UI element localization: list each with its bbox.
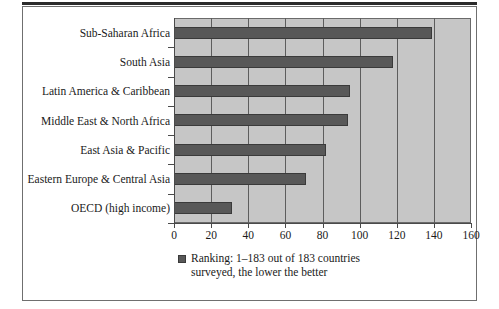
bar-row [174,164,471,193]
y-axis-labels: Sub-Saharan Africa South Asia Latin Amer… [0,18,170,223]
x-axis-tick [471,223,472,228]
plot-area-wrapper [174,18,471,223]
x-axis-label: 60 [270,229,300,242]
y-axis-label: Latin America & Caribbean [2,85,170,97]
bar [174,173,306,185]
bar [174,114,348,126]
bar-row [174,47,471,76]
y-axis-tick [168,135,174,136]
y-axis-label: Eastern Europe & Central Asia [2,173,170,185]
x-axis-tick [211,223,212,228]
y-axis-label: South Asia [2,56,170,68]
bar [174,85,350,97]
x-axis-tick [434,223,435,228]
x-axis-tick [323,223,324,228]
x-axis-tick [285,223,286,228]
x-axis-label: 100 [345,229,375,242]
x-axis-label: 120 [382,229,412,242]
bar [174,56,393,68]
x-axis-tick [248,223,249,228]
y-axis-tick [168,194,174,195]
y-axis-tick [168,47,174,48]
y-axis-label: Sub-Saharan Africa [2,27,170,39]
y-axis-label: OECD (high income) [2,202,170,214]
bar-row [174,77,471,106]
y-axis-label: Middle East & North Africa [2,115,170,127]
y-axis-label: East Asia & Pacific [2,144,170,156]
chart-figure: Sub-Saharan Africa South Asia Latin Amer… [0,0,499,309]
bar-row [174,106,471,135]
bar-row [174,18,471,47]
top-divider-rule [22,2,477,5]
bar-series [174,18,471,223]
x-axis-label: 20 [196,229,226,242]
legend: Ranking: 1–183 out of 183 countries surv… [178,252,376,279]
x-axis-tick [360,223,361,228]
legend-swatch-icon [178,255,186,263]
y-axis-line [174,18,175,224]
bar-row [174,194,471,223]
x-axis-label: 0 [159,229,189,242]
x-axis-label: 160 [456,229,486,242]
legend-label: Ranking: 1–183 out of 183 countries surv… [191,252,376,279]
bar [174,144,326,156]
y-axis-tick [168,164,174,165]
x-axis-label: 140 [419,229,449,242]
x-axis-label: 80 [308,229,338,242]
bar [174,27,432,39]
x-axis-label: 40 [233,229,263,242]
y-axis-tick [168,106,174,107]
y-axis-tick [168,77,174,78]
x-axis-tick [174,223,175,228]
x-axis-tick [397,223,398,228]
bar-row [174,135,471,164]
bar [174,202,232,214]
